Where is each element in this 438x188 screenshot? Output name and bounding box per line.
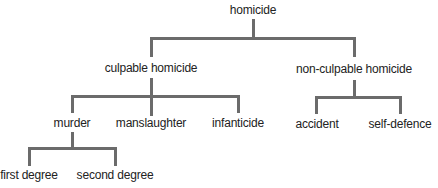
connector-line — [315, 96, 318, 114]
node-infanticide: infanticide — [212, 116, 264, 130]
connector-line — [150, 37, 356, 40]
connector-line — [28, 147, 117, 150]
node-second-degree: second degree — [77, 168, 154, 182]
node-culpable-homicide: culpable homicide — [105, 61, 198, 75]
connector-line — [28, 147, 31, 166]
node-first-degree: first degree — [0, 168, 58, 182]
node-self-defence: self-defence — [369, 117, 432, 131]
connector-line — [399, 96, 402, 114]
node-murder: murder — [54, 116, 91, 130]
node-non-culpable-homicide: non-culpable homicide — [296, 62, 412, 76]
node-manslaughter: manslaughter — [116, 116, 186, 130]
connector-line — [71, 95, 239, 98]
connector-line — [353, 37, 356, 57]
connector-line — [114, 147, 117, 166]
homicide-classification-tree: homicide culpable homicide non-culpable … — [0, 0, 438, 188]
connector-line — [71, 95, 74, 113]
connector-line — [315, 96, 402, 99]
connector-line — [150, 37, 153, 57]
node-accident: accident — [295, 117, 338, 131]
connector-line — [237, 95, 240, 113]
node-homicide: homicide — [230, 3, 276, 17]
